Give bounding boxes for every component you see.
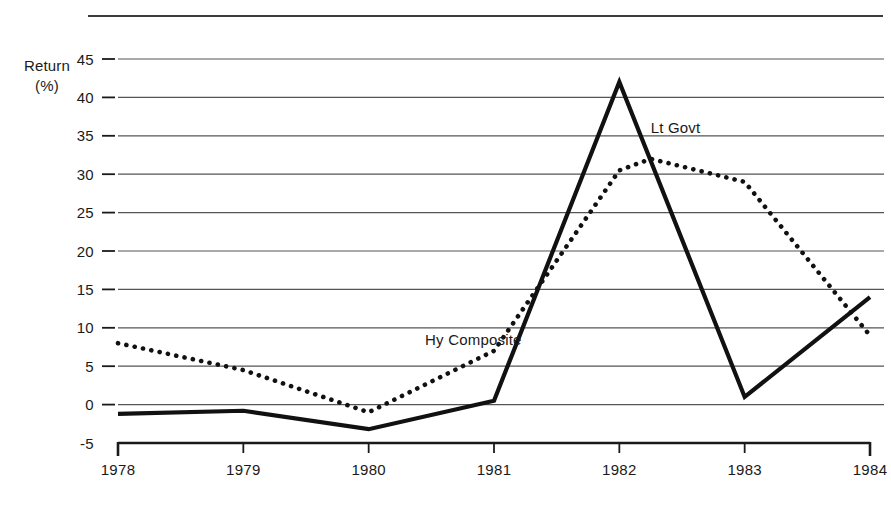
y-tick-label: -5	[80, 435, 94, 452]
x-tick-label: 1982	[602, 461, 637, 478]
chart-figure: Return (%) 454035302520151050-5 19781979…	[0, 0, 891, 520]
x-tick-label: 1978	[101, 461, 136, 478]
y-tick-label: 0	[85, 396, 94, 413]
x-tick-label: 1983	[727, 461, 762, 478]
x-tick-label: 1981	[477, 461, 512, 478]
y-tick-label: 15	[77, 281, 94, 298]
series-annotations-group: Lt GovtHy Composite	[425, 119, 701, 348]
y-tick-labels-group: 454035302520151050-5	[77, 51, 94, 452]
y-tick-label: 35	[77, 127, 94, 144]
series-group	[118, 82, 870, 429]
x-tick-labels-group: 1978197919801981198219831984	[101, 461, 888, 478]
x-tick-label: 1984	[853, 461, 888, 478]
x-axis-group	[118, 442, 870, 456]
series-annotation-hy-composite: Hy Composite	[425, 331, 522, 348]
series-annotation-lt-govt: Lt Govt	[651, 119, 701, 136]
y-tick-label: 10	[77, 319, 94, 336]
series-line-hy-composite	[118, 159, 870, 412]
line-chart-plot: 454035302520151050-5 1978197919801981198…	[0, 0, 891, 520]
y-tick-label: 40	[77, 89, 94, 106]
y-tick-label: 25	[77, 204, 94, 221]
series-line-lt-govt	[118, 82, 870, 429]
x-tick-label: 1980	[351, 461, 386, 478]
y-tick-label: 30	[77, 166, 94, 183]
y-tick-label: 5	[85, 358, 94, 375]
y-tick-label: 45	[77, 51, 94, 68]
x-tick-label: 1979	[226, 461, 261, 478]
y-tick-label: 20	[77, 243, 94, 260]
